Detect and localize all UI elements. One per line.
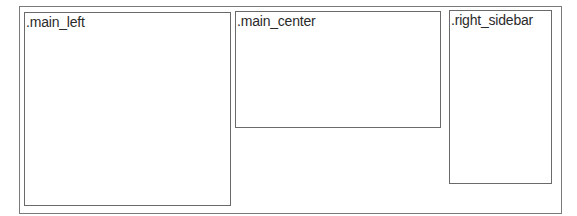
main-left-label: .main_left [26, 14, 85, 30]
main-left-region: .main_left [24, 12, 231, 206]
right-sidebar-label: .right_sidebar [451, 12, 533, 28]
main-center-region: .main_center [235, 11, 441, 128]
right-sidebar-region: .right_sidebar [449, 10, 552, 184]
main-center-label: .main_center [237, 13, 316, 29]
